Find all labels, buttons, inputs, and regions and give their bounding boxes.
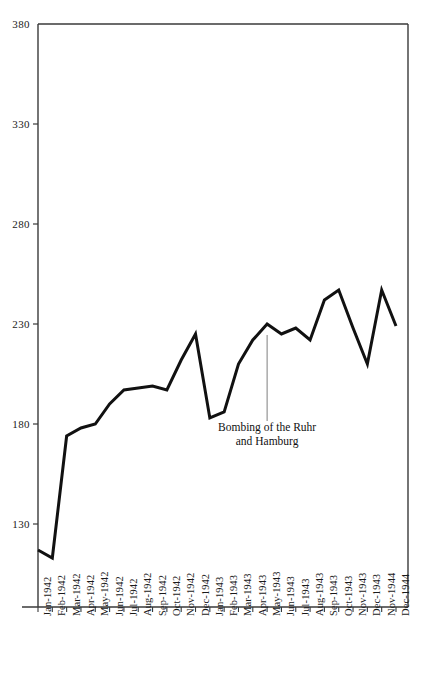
x-tick-label: Dec-1944 <box>400 574 411 616</box>
x-tick-label: Aug-1942 <box>142 573 153 616</box>
y-tick-label: 380 <box>0 18 30 30</box>
plot-frame <box>22 24 408 607</box>
y-tick-label: 180 <box>0 418 30 430</box>
x-tick-label: Mar-1943 <box>242 573 253 616</box>
y-tick-label: 230 <box>0 318 30 330</box>
annotation-line-2: and Hamburg <box>202 435 332 449</box>
x-tick-label: Aug-1943 <box>314 573 325 616</box>
x-tick-label: Jul-1942 <box>128 578 139 616</box>
x-tick-label: Jan-1942 <box>42 577 53 616</box>
x-tick-label: Dec-1942 <box>200 574 211 616</box>
x-tick-label: Oct-1942 <box>171 576 182 616</box>
x-tick-label: Dec-1943 <box>371 574 382 616</box>
x-tick-label: Sep-1942 <box>157 575 168 616</box>
chart-figure: 130180230280330380 Jan-1942Feb-1942Mar-1… <box>0 0 429 690</box>
y-tick-label: 330 <box>0 118 30 130</box>
x-tick-label: Mar-1942 <box>71 573 82 616</box>
x-tick-label: Nov-1944 <box>386 573 397 616</box>
x-tick-label: Sep-1943 <box>328 575 339 616</box>
x-tick-label: May-1942 <box>99 571 110 616</box>
annotation-text: Bombing of the Ruhr and Hamburg <box>202 421 332 448</box>
y-tick-label: 130 <box>0 518 30 530</box>
x-tick-label: Feb-1943 <box>228 575 239 616</box>
x-tick-label: Apr-1943 <box>257 575 268 616</box>
x-tick-label: Nov-1942 <box>185 573 196 616</box>
annotation-line-1: Bombing of the Ruhr <box>202 421 332 435</box>
x-tick-label: Jan-1943 <box>214 577 225 616</box>
x-tick-label: Jun-1943 <box>285 576 296 616</box>
x-tick-label: Jun-1942 <box>114 576 125 616</box>
y-tick-label: 280 <box>0 218 30 230</box>
x-tick-label: Feb-1942 <box>56 575 67 616</box>
x-tick-label: Jul-1943 <box>300 578 311 616</box>
x-tick-label: Nov-1943 <box>357 573 368 616</box>
x-tick-label: Apr-1942 <box>85 575 96 616</box>
x-tick-label: May-1943 <box>271 571 282 616</box>
y-axis-ticks <box>33 124 38 524</box>
x-tick-label: Oct-1943 <box>343 576 354 616</box>
